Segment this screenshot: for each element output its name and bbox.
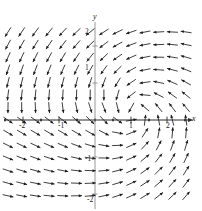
field-arrow-head-icon <box>79 194 82 197</box>
field-arrow <box>114 66 122 74</box>
field-arrow <box>74 65 79 75</box>
field-arrow <box>142 128 148 137</box>
field-arrow <box>61 77 64 88</box>
field-arrow-head-icon <box>103 109 106 113</box>
x-axis-label: x <box>192 115 196 123</box>
field-arrow-head-icon <box>20 110 23 113</box>
field-arrow <box>140 180 149 186</box>
field-arrow <box>16 169 26 173</box>
field-arrow <box>71 182 82 185</box>
field-arrow <box>99 130 109 135</box>
field-arrow <box>112 156 123 159</box>
field-arrow <box>101 65 107 74</box>
field-arrow-head-icon <box>106 157 109 160</box>
field-arrow <box>100 41 109 48</box>
field-arrow <box>127 79 136 85</box>
field-arrow-head-icon <box>76 110 79 113</box>
field-arrow <box>5 27 11 36</box>
field-arrow <box>171 127 174 138</box>
field-arrow <box>126 181 136 186</box>
field-arrow-head-icon <box>126 31 130 34</box>
field-arrow-head-icon <box>65 170 68 173</box>
field-arrow <box>169 179 176 187</box>
x-axis-tick-dot <box>40 119 42 121</box>
field-arrow <box>141 141 148 149</box>
field-arrow <box>85 182 96 185</box>
field-arrow <box>44 169 55 172</box>
field-arrow <box>59 40 66 49</box>
field-arrow-head-icon <box>65 194 68 197</box>
field-arrow <box>60 52 66 61</box>
field-arrow <box>33 52 38 62</box>
field-arrow <box>116 90 120 101</box>
field-arrow <box>98 181 109 184</box>
field-arrow <box>17 156 27 160</box>
field-arrow <box>31 130 41 136</box>
field-arrow <box>33 77 36 88</box>
field-arrow <box>126 55 136 59</box>
x-axis-tick-dot <box>148 119 150 121</box>
field-arrow-head-icon <box>153 68 156 71</box>
field-arrow <box>89 90 92 101</box>
field-arrow <box>184 153 189 163</box>
field-arrow-head-icon <box>6 110 9 113</box>
field-arrow <box>112 181 123 185</box>
field-arrow <box>30 156 40 160</box>
field-arrow-head-icon <box>157 115 160 118</box>
field-arrow-head-icon <box>102 97 105 100</box>
field-arrow <box>44 195 55 198</box>
field-arrow <box>6 102 9 113</box>
field-arrow <box>32 28 39 37</box>
field-arrow <box>3 195 14 198</box>
field-arrow <box>75 90 78 101</box>
field-arrow <box>155 167 163 175</box>
field-arrow-head-icon <box>120 132 123 135</box>
field-arrow-head-icon <box>140 31 143 34</box>
field-arrow <box>46 28 53 37</box>
field-arrow <box>153 31 164 34</box>
field-arrow <box>141 167 150 173</box>
field-arrow-head-icon <box>37 182 40 185</box>
field-arrow <box>72 130 82 135</box>
field-arrow-head-icon <box>89 109 92 112</box>
field-arrow <box>102 102 106 112</box>
field-arrow <box>19 27 25 36</box>
field-arrow <box>127 92 136 99</box>
field-arrow <box>17 130 27 136</box>
field-arrow <box>46 52 51 62</box>
field-arrow <box>48 102 51 113</box>
field-arrow <box>167 55 178 58</box>
field-arrow <box>169 103 176 112</box>
field-arrow <box>85 169 96 172</box>
field-arrow <box>181 68 191 72</box>
field-arrow-head-icon <box>172 140 175 144</box>
field-arrow <box>87 53 94 62</box>
field-arrow <box>30 195 41 198</box>
field-arrow <box>88 77 92 88</box>
field-arrow <box>20 90 23 101</box>
field-arrow <box>6 90 9 101</box>
y-tick-label-neg2: -2 <box>87 196 93 204</box>
field-arrow-head-icon <box>120 156 123 159</box>
field-arrow <box>182 92 191 99</box>
field-arrow <box>73 40 80 48</box>
field-arrow <box>126 43 136 47</box>
field-arrow-head-icon <box>89 97 92 100</box>
field-arrow-head-icon <box>24 195 27 198</box>
field-arrow <box>168 192 176 200</box>
field-arrow <box>20 65 24 75</box>
field-arrow <box>182 192 189 200</box>
field-arrow <box>73 53 79 62</box>
field-arrow <box>112 194 122 198</box>
field-arrow <box>112 132 123 135</box>
field-arrow <box>113 42 123 47</box>
field-arrow <box>32 40 38 49</box>
field-arrow <box>126 194 136 199</box>
field-arrow-head-icon <box>153 80 156 83</box>
field-arrow <box>140 69 151 72</box>
field-arrow <box>16 182 27 185</box>
vector-field-canvas <box>0 0 202 211</box>
field-arrow <box>57 194 68 197</box>
field-arrow <box>34 102 37 113</box>
field-arrow <box>181 55 192 59</box>
